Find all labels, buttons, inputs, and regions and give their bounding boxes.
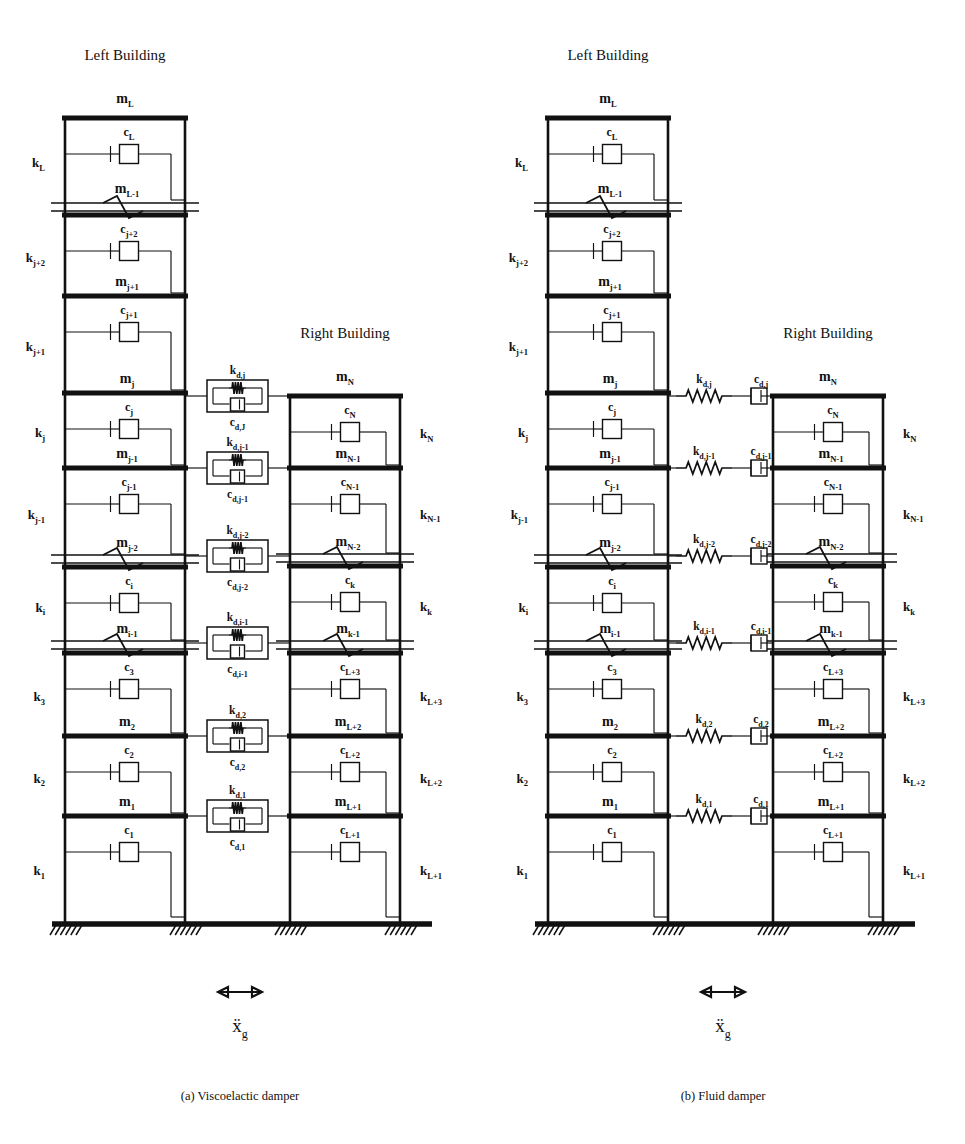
left-story-c-label: c2 <box>607 743 617 760</box>
left-story-k-label: k3 <box>517 689 528 707</box>
right-story-c-label: cL+3 <box>823 660 843 677</box>
left-story-k-label: ki <box>518 600 528 618</box>
right-story-c-label: cN-1 <box>824 475 843 492</box>
right-story-mass-label: mk-1 <box>336 621 359 639</box>
left-story-k-label: kL <box>32 155 45 173</box>
left-story-mass-label: mi-1 <box>116 621 137 639</box>
left-story-k-label: k2 <box>517 771 528 789</box>
left-story-c-label: cj+2 <box>603 222 620 239</box>
right-story-mass-label: mN-2 <box>336 534 361 552</box>
right-story-c-label: ck <box>828 573 838 590</box>
right-story-k-label: kN <box>903 426 917 444</box>
left-story-k-label: kj+2 <box>26 250 45 268</box>
left-story-mass-label: m1 <box>602 794 618 812</box>
left-top-mass-label: mL <box>599 91 617 109</box>
left-story-mass-label: mj <box>603 371 618 389</box>
damper-dashpot-label: cd,j-2 <box>751 533 772 549</box>
left-story-c-label: ci <box>125 574 133 591</box>
left-top-mass-label: mL <box>116 91 134 109</box>
left-story-mass-label: mL-1 <box>598 181 622 199</box>
left-building-title: Left Building <box>567 47 649 63</box>
right-story-mass-label: mk-1 <box>819 621 842 639</box>
right-story-c-label: cL+3 <box>340 660 360 677</box>
right-story-k-label: kN <box>420 426 434 444</box>
left-story-mass-label: mj+1 <box>115 274 139 292</box>
left-story-c-label: cj-1 <box>121 475 136 492</box>
panel-fluid: Left BuildingRight BuildingmLkLcLmL-1kj+… <box>483 0 965 1144</box>
damper-dashpot-label: cd,2 <box>230 756 246 772</box>
damper-dashpot-label: cd,J <box>230 416 246 432</box>
right-story-k-label: kL+2 <box>420 771 442 789</box>
damper-dashpot-label: cd,1 <box>230 836 246 852</box>
left-story-mass-label: mj-1 <box>116 446 138 464</box>
damper-dashpot-label: cd,1 <box>753 793 769 809</box>
right-story-c-label: cL+1 <box>823 823 843 840</box>
left-story-c-label: c3 <box>607 660 617 677</box>
left-story-k-label: k1 <box>517 863 528 881</box>
damper-spring-label: kd,j <box>696 373 712 389</box>
damper-spring-label: kd,j-1 <box>693 445 715 461</box>
left-story-mass-label: m2 <box>119 714 135 732</box>
right-top-mass-label: mN <box>819 369 838 387</box>
right-story-k-label: kN-1 <box>420 507 440 525</box>
damper-spring-label: kd,2 <box>229 704 246 720</box>
damper-dashpot-label: cd,2 <box>753 713 769 729</box>
right-story-k-label: kL+3 <box>903 689 925 707</box>
left-story-k-label: k2 <box>34 771 45 789</box>
right-story-k-label: kk <box>903 599 915 617</box>
left-story-mass-label: mj-2 <box>116 535 138 553</box>
right-story-k-label: kL+1 <box>420 863 442 881</box>
left-story-k-label: kj+2 <box>509 250 528 268</box>
right-story-mass-label: mN-2 <box>819 534 844 552</box>
left-story-k-label: k1 <box>34 863 45 881</box>
damper-dashpot-label: cd,j-1 <box>751 445 772 461</box>
damper-spring-label: kd,i-1 <box>693 620 715 636</box>
damper-spring-label: kd,j <box>230 364 246 380</box>
panel-a-canvas: Left BuildingRight BuildingmLkLcLmL-1kj+… <box>0 0 482 1144</box>
panel-b-canvas: Left BuildingRight BuildingmLkLcLmL-1kj+… <box>483 0 965 1144</box>
damper-spring-label: kd,j-1 <box>226 436 248 452</box>
damper-spring-label: kd,i-1 <box>227 611 249 627</box>
caption-b: (b) Fluid damper <box>681 1089 767 1103</box>
left-story-mass-label: mj+1 <box>598 274 622 292</box>
damper-spring-label: kd,j-2 <box>226 524 248 540</box>
left-story-mass-label: mi-1 <box>599 621 620 639</box>
damper-dashpot-label: cd,j-1 <box>227 488 248 504</box>
right-story-k-label: kL+1 <box>903 863 925 881</box>
damper-dashpot-label: cd,i-1 <box>227 663 247 679</box>
left-story-k-label: kj <box>518 425 528 443</box>
left-story-k-label: ki <box>35 600 45 618</box>
right-story-c-label: cN <box>827 403 839 420</box>
panel-viscoelastic: Left BuildingRight BuildingmLkLcLmL-1kj+… <box>0 0 482 1144</box>
damper-spring-label: kd,1 <box>696 793 713 809</box>
right-building-title: Right Building <box>783 325 873 341</box>
left-story-c-label: cL <box>124 125 135 142</box>
left-story-k-label: kj+1 <box>509 339 528 357</box>
caption-a: (a) Viscoelactic damper <box>181 1089 300 1103</box>
right-story-mass-label: mL+1 <box>818 794 844 812</box>
right-story-c-label: ck <box>345 573 355 590</box>
left-story-c-label: c1 <box>607 823 617 840</box>
ground-excitation-label: ẍg <box>232 1015 248 1041</box>
right-top-mass-label: mN <box>336 369 355 387</box>
damper-dashpot-label: cd,j-2 <box>227 576 248 592</box>
damper-dashpot-label: cd,j <box>754 373 769 389</box>
left-story-mass-label: m2 <box>602 714 618 732</box>
right-story-mass-label: mL+1 <box>335 794 361 812</box>
right-story-c-label: cL+2 <box>340 743 360 760</box>
right-story-c-label: cN-1 <box>341 475 360 492</box>
left-story-k-label: kL <box>515 155 528 173</box>
left-story-mass-label: mj-1 <box>599 446 621 464</box>
left-story-c-label: cj+2 <box>120 222 137 239</box>
left-story-c-label: cj-1 <box>604 475 619 492</box>
right-building-title: Right Building <box>300 325 390 341</box>
left-story-mass-label: mj <box>120 371 135 389</box>
left-story-c-label: cj <box>608 400 616 417</box>
left-story-k-label: kj-1 <box>28 507 45 525</box>
right-story-c-label: cN <box>344 403 356 420</box>
left-story-c-label: c1 <box>124 823 134 840</box>
right-story-mass-label: mL+2 <box>335 714 361 732</box>
damper-spring-label: kd,2 <box>696 713 713 729</box>
left-story-k-label: kj <box>35 425 45 443</box>
ground-excitation-label: ẍg <box>715 1015 731 1041</box>
